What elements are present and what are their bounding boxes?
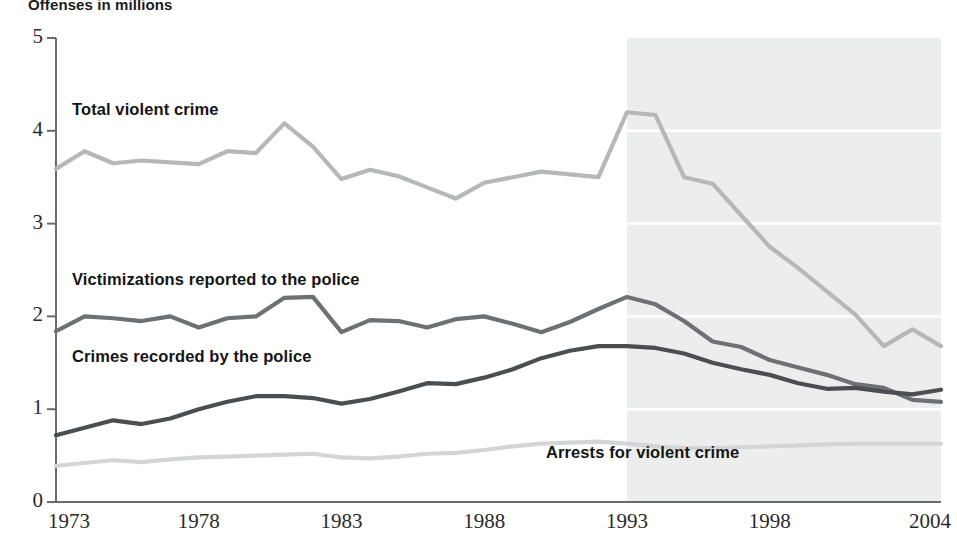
x-tick-label-2004: 2004 [871,509,951,534]
y-tick-label-2: 2 [17,302,43,327]
series-label-arrests-for-violent-crime: Arrests for violent crime [546,443,739,462]
y-tick-label-3: 3 [17,210,43,235]
y-tick-label-4: 4 [17,117,43,142]
x-tick-label-1983: 1983 [301,509,381,534]
x-tick-label-1998: 1998 [730,509,810,534]
x-tick-label-1973: 1973 [48,509,128,534]
series-label-total-violent-crime: Total violent crime [72,100,218,119]
y-tick-label-5: 5 [17,24,43,49]
shaded-region [627,38,941,502]
y-tick-label-0: 0 [17,488,43,513]
x-tick-label-1988: 1988 [444,509,524,534]
chart-figure: Offenses in millions 0123451973197819831… [0,0,957,555]
x-tick-label-1993: 1993 [587,509,667,534]
y-tick-label-1: 1 [17,395,43,420]
x-tick-label-1978: 1978 [159,509,239,534]
series-label-crimes-recorded-by-the-police: Crimes recorded by the police [72,347,311,366]
series-label-victimizations-reported-to-the-police: Victimizations reported to the police [72,270,360,289]
